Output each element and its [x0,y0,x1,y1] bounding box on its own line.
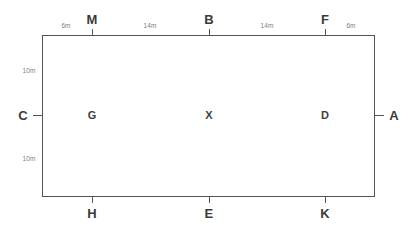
point-c-label: C [18,108,28,123]
point-h-label: H [87,206,97,221]
point-m-label: M [86,12,97,27]
dim-corner-to-m: 6m [61,22,70,29]
point-g-label: G [88,109,97,121]
dim-c-to-bottom: 10m [23,155,36,162]
dim-m-to-b: 14m [144,22,157,29]
dim-top-to-c: 10m [23,67,36,74]
dim-b-to-f: 14m [261,22,274,29]
point-f-label: F [321,12,329,27]
point-d-label: D [321,109,329,121]
dim-f-to-corner: 6m [346,22,355,29]
point-e-label: E [205,206,214,221]
point-a-label: A [389,108,399,123]
site-plan-diagram: MBFHEKCA GXD 6m14m14m6m10m10m [0,0,418,232]
point-k-label: K [320,206,330,221]
point-x-label: X [205,109,212,121]
point-b-label: B [204,12,214,27]
